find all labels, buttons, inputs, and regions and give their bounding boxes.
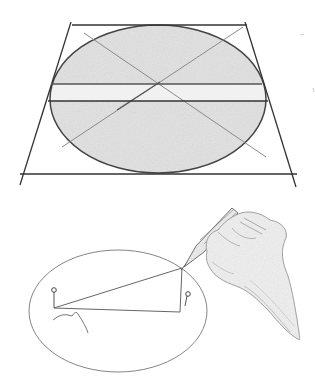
right-pin: [185, 296, 187, 306]
string-loop: [54, 268, 182, 312]
pencil-sketch: [0, 0, 315, 377]
bottom-figure-pin-and-string: [29, 208, 300, 372]
hand-holding-pencil: [181, 208, 300, 340]
top-figure-ellipse-in-trapezoid: [20, 22, 297, 187]
string-loose-end: [53, 312, 88, 333]
